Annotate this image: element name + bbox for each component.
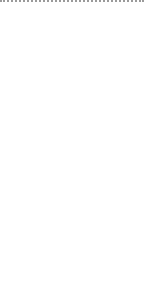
base-ten-blocks <box>0 0 144 293</box>
